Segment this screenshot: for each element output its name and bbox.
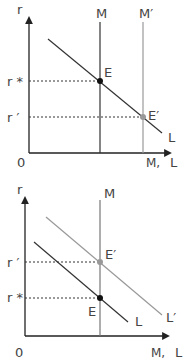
y-axis-label: r: [17, 182, 23, 197]
y-axis-label: r: [17, 2, 23, 17]
rate-label-r-prime: r ′: [7, 255, 19, 270]
equilibrium-point-e: [97, 295, 103, 301]
rate-label-r-prime: r ′: [7, 110, 19, 125]
x-mid-label: M,: [146, 156, 160, 170]
rate-label-r-star: r *: [7, 74, 23, 89]
origin-label: 0: [17, 155, 25, 170]
origin-label: 0: [15, 345, 23, 360]
demand-curve-l-label: L: [135, 314, 143, 329]
demand-curve-l-prime-label: L′: [166, 310, 176, 325]
x-axis-label: L: [170, 155, 178, 170]
supply-curve-m-label: M: [96, 6, 107, 21]
supply-curve-m-label: M: [104, 186, 115, 201]
equilibrium-point-e-prime: [140, 114, 146, 120]
equilibrium-label-e: E: [104, 65, 112, 80]
demand-curve-l-label: L: [168, 130, 176, 145]
equilibrium-label-e-prime: E′: [148, 108, 159, 123]
equilibrium-label-e-prime: E′: [105, 247, 116, 262]
rate-label-r-star: r *: [7, 290, 23, 305]
x-axis-label: L: [175, 345, 183, 360]
equilibrium-label-e: E: [88, 304, 96, 319]
diagram-top: r 0 M, L M M′ L r * r ′ E E′: [7, 2, 178, 170]
money-market-diagrams: r 0 M, L M M′ L r * r ′ E E′ r 0 M, L M: [0, 0, 187, 363]
diagram-bottom: r 0 M, L M L′ L r ′ r * E′ E: [7, 182, 183, 360]
supply-curve-m-prime-label: M′: [139, 6, 153, 21]
x-mid-label: M,: [151, 346, 165, 360]
demand-curve-l-prime: [46, 217, 162, 315]
equilibrium-point-e-prime: [97, 259, 103, 265]
equilibrium-point-e: [97, 78, 103, 84]
